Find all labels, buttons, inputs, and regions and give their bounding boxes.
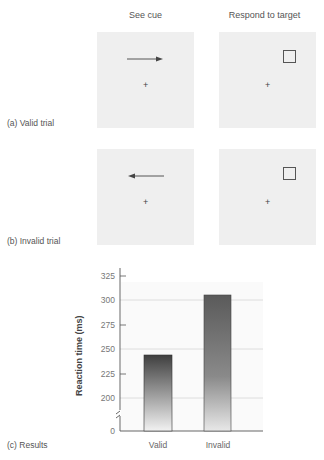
x-label-valid: Valid — [133, 440, 183, 450]
y-tick-225: 225 — [93, 369, 115, 379]
y-tick-275: 275 — [93, 320, 115, 330]
y-tick-0: 0 — [93, 426, 115, 436]
y-tick-250: 250 — [93, 344, 115, 354]
y-axis-title: Reaction time (ms) — [74, 315, 84, 396]
row-label-results: (c) Results — [7, 440, 48, 450]
y-tick-300: 300 — [93, 295, 115, 305]
y-tick-200: 200 — [93, 393, 115, 403]
x-label-invalid: Invalid — [193, 440, 243, 450]
bar-valid — [144, 355, 172, 431]
y-tick-325: 325 — [93, 271, 115, 281]
chart-axes — [0, 0, 324, 460]
bar-invalid — [204, 295, 231, 431]
